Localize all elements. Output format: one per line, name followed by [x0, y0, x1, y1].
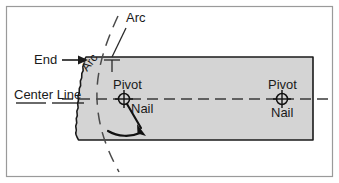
arc-top-label: Arc [126, 10, 146, 25]
figure-root: Arc Arc End Center Line Pivot Nail Pivot [0, 0, 339, 183]
nail-right-label: Nail [271, 105, 294, 120]
center-line-label: Center Line [14, 87, 81, 102]
pivot-right-label: Pivot [268, 77, 297, 92]
nail-left-label: Nail [131, 101, 154, 116]
arc-pivot-diagram: Arc Arc End Center Line Pivot Nail Pivot [0, 0, 339, 183]
pivot-left-label: Pivot [113, 77, 142, 92]
end-label: End [34, 52, 57, 67]
